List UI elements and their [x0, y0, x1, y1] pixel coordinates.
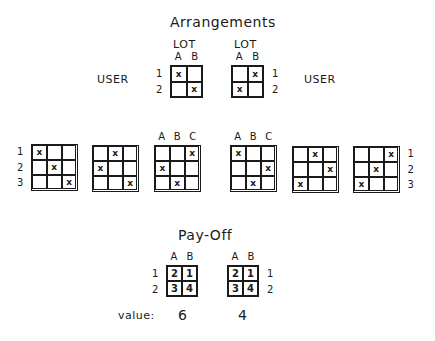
grid-cell: 2 [228, 266, 243, 281]
cross-mark-cell: x [47, 160, 62, 175]
grid-cell [384, 162, 399, 177]
lot-grid-left: xx [170, 65, 203, 98]
arrangements-title: Arrangements [170, 14, 276, 30]
column-label: B [246, 131, 262, 142]
cross-mark-cell: x [108, 146, 123, 161]
row-label: 2 [272, 82, 278, 99]
grid-cell [323, 177, 338, 192]
column-label: B [248, 51, 265, 62]
grid-cell [32, 160, 47, 175]
cross-mark-cell: x [62, 175, 77, 190]
column-labels: ABC [154, 131, 201, 142]
grid-cell [108, 176, 123, 191]
column-labels: AB [231, 51, 264, 62]
grid-cell [369, 147, 384, 162]
row-label: 2 [152, 281, 158, 297]
grid-cell [293, 162, 308, 177]
payoff-value-left: 6 [178, 307, 187, 323]
grid-cell: 3 [167, 281, 182, 296]
row-label: 1 [272, 65, 278, 82]
grid-cell [47, 175, 62, 190]
cross-mark-cell: x [93, 161, 108, 176]
column-label: B [170, 131, 186, 142]
row-label: 2 [17, 160, 23, 176]
grid-cell: 3 [228, 281, 243, 296]
grid-cell [123, 146, 138, 161]
grid-cell [248, 82, 264, 98]
grid-cell [155, 146, 170, 161]
grid-cell [185, 161, 200, 176]
grid-cell [170, 161, 185, 176]
row-label: 2 [156, 82, 162, 99]
column-labels: AB [166, 251, 198, 262]
column-label: A [154, 131, 170, 142]
grid-cell [354, 147, 369, 162]
cross-mark-cell: x [369, 162, 384, 177]
column-label: C [261, 131, 277, 142]
grid-cell: 1 [243, 266, 258, 281]
arrangement-grid-3x3-3: xxx [154, 145, 201, 192]
cross-mark-cell: x [261, 161, 276, 176]
grid-cell: 4 [182, 281, 197, 296]
row-label: 1 [267, 265, 273, 281]
grid-cell [93, 176, 108, 191]
row-label: 3 [408, 177, 414, 193]
column-labels: ABC [230, 131, 277, 142]
arrangement-grid-3x3-2: xxx [92, 145, 139, 192]
column-label: A [166, 251, 182, 262]
row-labels: 12 [152, 265, 158, 297]
payoff-value-right: 4 [238, 307, 247, 323]
grid-cell [293, 147, 308, 162]
grid-cell [32, 175, 47, 190]
column-label: A [170, 51, 187, 62]
cross-mark-cell: x [323, 162, 338, 177]
grid-cell [155, 176, 170, 191]
grid-cell [232, 66, 248, 82]
arrangement-grid-3x3-4: xxx [230, 145, 277, 192]
grid-cell [354, 162, 369, 177]
column-label: C [185, 131, 201, 142]
row-label: 3 [17, 175, 23, 191]
row-label: 1 [17, 144, 23, 160]
column-label: A [231, 51, 248, 62]
grid-cell [108, 161, 123, 176]
row-labels: 123 [408, 146, 414, 193]
cross-mark-cell: x [155, 161, 170, 176]
row-labels: 12 [267, 265, 273, 297]
grid-cell [231, 161, 246, 176]
column-labels: AB [227, 251, 259, 262]
grid-cell [246, 146, 261, 161]
grid-cell [308, 177, 323, 192]
grid-cell [323, 147, 338, 162]
column-label: B [187, 51, 204, 62]
cross-mark-cell: x [123, 176, 138, 191]
column-label: A [227, 251, 243, 262]
row-label: 2 [408, 162, 414, 178]
cross-mark-cell: x [171, 66, 187, 82]
user-label-right: USER [304, 73, 336, 86]
grid-cell: 1 [182, 266, 197, 281]
column-label: B [243, 251, 259, 262]
grid-cell [261, 146, 276, 161]
grid-cell [93, 146, 108, 161]
arrangement-grid-3x3-5: xxx [292, 146, 339, 193]
grid-cell: 2 [167, 266, 182, 281]
cross-mark-cell: x [246, 176, 261, 191]
payoff-matrix-left: 2134 [166, 265, 198, 297]
grid-cell [187, 66, 203, 82]
row-label: 1 [152, 265, 158, 281]
grid-cell [246, 161, 261, 176]
grid-cell [123, 161, 138, 176]
cross-mark-cell: x [308, 147, 323, 162]
arrangement-grid-3x3-6: xxx [353, 146, 400, 193]
grid-cell [185, 176, 200, 191]
column-labels: AB [170, 51, 203, 62]
grid-cell [62, 145, 77, 160]
grid-cell: 4 [243, 281, 258, 296]
row-label: 1 [408, 146, 414, 162]
cross-mark-cell: x [187, 82, 203, 98]
cross-mark-cell: x [170, 176, 185, 191]
arrangement-grid-3x3-1: xxx [31, 144, 78, 191]
column-label: A [230, 131, 246, 142]
grid-cell [261, 176, 276, 191]
